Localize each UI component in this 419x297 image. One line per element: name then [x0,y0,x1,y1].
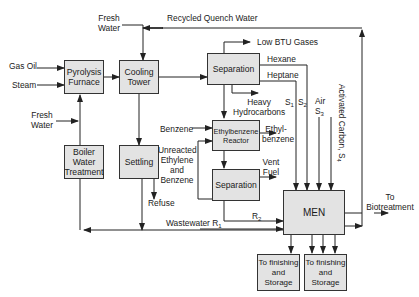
wastewater-text: Wastewater R [166,218,218,228]
activated-carbon-text: Activated Carbon, S [337,84,347,158]
separation-top-label: Separation [213,64,255,74]
heptane-label: Heptane [267,70,299,80]
s2-label: S2 [298,97,307,110]
steam-label: Steam [12,80,36,90]
s1-label: S1 [285,97,294,110]
s1-subscript: 1 [291,102,294,108]
air-label: Air [315,96,325,106]
wastewater-subscript: 1 [218,223,221,229]
r2-subscript: 2 [258,216,261,222]
separation-top-box: Separation [207,53,260,85]
separation-bottom-box: Separation [212,169,260,201]
vent-fuel-label: Vent Fuel [262,157,280,177]
men-box: MEN [283,190,345,235]
men-label: MEN [303,208,325,218]
low-btu-gases-label: Low BTU Gases [257,37,318,47]
finishing-storage-box-2: To finishing and Storage [304,254,347,291]
boiler-water-treatment-label: Boiler Water Treatment [65,147,104,177]
ethylbenzene-reactor-box: Ethylbenzene Reactor [212,120,260,151]
finishing-storage-label-2: To finishing and Storage [305,258,346,288]
s3-subscript: 3 [321,111,324,117]
activated-carbon-subscript: 4 [336,158,342,161]
recycled-quench-water-label: Recycled Quench Water [167,13,257,23]
heavy-hydrocarbons-label: Heavy Hydrocarbons [233,97,285,117]
settling-label: Settling [125,157,154,167]
finishing-storage-label-1: To finishing and Storage [258,258,299,288]
s2-subscript: 2 [304,102,307,108]
fresh-water-top-label: Fresh Water [96,13,122,33]
gas-oil-label: Gas Oil [9,61,37,71]
cooling-tower-label: Cooling Tower [120,67,158,87]
pyrolysis-furnace-label: Pyrolysis Furnace [65,67,103,87]
ethylbenzene-out-label: Ethyl- benzene [262,124,290,144]
to-biotreatment-label: To Biotreatment [364,192,416,212]
fresh-water-left-label: Fresh Water [28,110,56,130]
refuse-label: Refuse [148,198,175,208]
activated-carbon-label: Activated Carbon, S4 [336,84,347,162]
finishing-storage-box-1: To finishing and Storage [257,254,300,291]
r2-label: R2 [252,211,261,224]
wastewater-r1-label: Wastewater R1 [166,218,222,231]
pyrolysis-furnace-box: Pyrolysis Furnace [64,60,104,94]
settling-box: Settling [119,145,159,179]
hexane-label: Hexane [267,54,296,64]
separation-bottom-label: Separation [215,180,257,190]
benzene-label: Benzene [160,124,193,134]
cooling-tower-box: Cooling Tower [119,60,159,94]
boiler-water-treatment-box: Boiler Water Treatment [64,145,104,179]
flow-lines [0,0,419,297]
s3-label: S3 [315,106,324,119]
ethylbenzene-reactor-label: Ethylbenzene Reactor [213,127,259,145]
unreacted-ethylene-benzene-label: Unreacted Ethylene and Benzene [158,145,196,185]
